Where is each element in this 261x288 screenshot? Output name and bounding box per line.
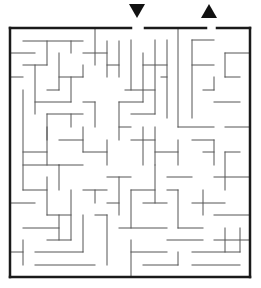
maze-grid	[0, 0, 261, 288]
start-arrow-icon	[129, 4, 145, 18]
maze-walls	[11, 28, 250, 277]
end-arrow-icon	[201, 4, 217, 18]
